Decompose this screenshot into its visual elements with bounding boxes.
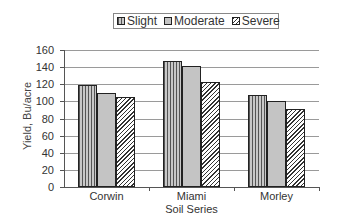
bar-miami-moderate <box>182 66 201 187</box>
legend-item-severe: Severe <box>232 14 280 28</box>
y-axis-line <box>64 50 65 188</box>
bar-morley-moderate <box>267 101 286 187</box>
moderate-swatch-icon <box>164 17 172 25</box>
bar-corwin-moderate <box>97 93 116 187</box>
x-tick-mark <box>319 187 320 191</box>
legend-item-moderate: Moderate <box>164 14 225 28</box>
bar-corwin-slight <box>78 85 97 187</box>
bar-corwin-severe <box>116 97 135 187</box>
x-axis-label: Soil Series <box>64 203 319 215</box>
legend-item-slight: Slight <box>117 14 157 28</box>
legend-label: Slight <box>127 14 157 28</box>
y-tick-label: 140 <box>28 61 54 73</box>
bar-miami-slight <box>163 61 182 187</box>
y-tick-label: 120 <box>28 78 54 90</box>
x-axis-line <box>64 187 319 188</box>
y-tick-label: 160 <box>28 44 54 56</box>
x-category-label: Corwin <box>64 190 149 202</box>
slight-swatch-icon <box>117 17 125 25</box>
legend-label: Moderate <box>174 14 225 28</box>
y-tick-label: 60 <box>28 130 54 142</box>
gridline <box>64 50 319 51</box>
y-tick-label: 0 <box>28 181 54 193</box>
chart-legend: Slight Moderate Severe <box>113 13 279 29</box>
bar-morley-severe <box>286 109 305 187</box>
y-tick-label: 20 <box>28 164 54 176</box>
legend-label: Severe <box>242 14 280 28</box>
severe-swatch-icon <box>232 17 240 25</box>
y-tick-label: 100 <box>28 95 54 107</box>
x-category-label: Miami <box>149 190 234 202</box>
bar-morley-slight <box>248 95 267 187</box>
y-tick-label: 40 <box>28 147 54 159</box>
plot-area <box>64 50 319 187</box>
x-category-label: Morley <box>234 190 319 202</box>
y-tick-label: 80 <box>28 113 54 125</box>
bar-miami-severe <box>201 82 220 187</box>
